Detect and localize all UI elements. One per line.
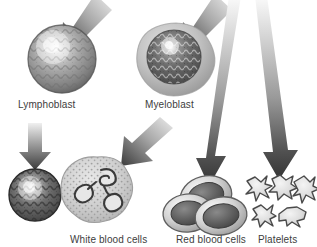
platelet [252, 205, 276, 227]
label-red-blood-cells: Red blood cells [176, 234, 246, 245]
cell-lymphocyte [7, 167, 65, 225]
platelet [246, 176, 272, 201]
arrow-lymphoblast-to-lymphocyte-icon [19, 123, 51, 170]
label-myeloblast: Myeloblast [145, 99, 194, 110]
platelet [293, 176, 317, 203]
platelet [279, 207, 306, 227]
label-white-blood-cells: White blood cells [70, 234, 147, 245]
cell-red-blood-cells [161, 170, 250, 239]
arrow-myeloblast-to-platelets-icon [255, 0, 298, 180]
diagram-graphics [0, 0, 317, 247]
cell-lymphoblast [26, 23, 100, 97]
label-platelets: Platelets [258, 234, 297, 245]
arrow-myeloblast-to-granulocyte-icon [121, 117, 173, 166]
cell-platelets [246, 175, 317, 227]
blood-cell-differentiation-diagram: Lymphoblast Myeloblast White blood cells… [0, 0, 317, 247]
cell-myeloblast [137, 23, 215, 96]
label-lymphoblast: Lymphoblast [18, 99, 75, 110]
